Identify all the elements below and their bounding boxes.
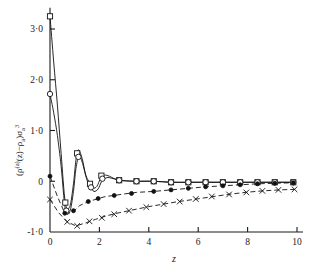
marker-circle (168, 180, 173, 185)
marker-dot (255, 182, 259, 186)
x-tick-layer: 0246810 (48, 227, 302, 247)
curve-series-cross (50, 189, 295, 226)
ylabel-arg: (z) (14, 151, 24, 161)
marker-circle (100, 176, 105, 181)
x-tick-label: 0 (48, 237, 53, 247)
marker-dot (238, 183, 242, 187)
marker-dot (112, 193, 116, 197)
x-tick-label: 2 (97, 237, 102, 247)
marker-circle (47, 91, 52, 96)
marker-dot (169, 188, 173, 192)
y-tick-label: 0 (38, 177, 43, 187)
marker-dot (86, 200, 90, 204)
curves-layer (50, 16, 295, 226)
y-tick-label: -1·0 (27, 227, 43, 237)
marker-cross (87, 219, 93, 225)
axes-layer (50, 8, 303, 232)
marker-cross (99, 215, 105, 221)
markers-layer (47, 14, 297, 229)
marker-dot (186, 186, 190, 190)
marker-dot (291, 181, 295, 185)
marker-circle (186, 180, 191, 185)
x-tick-label: 6 (196, 237, 201, 247)
marker-circle (134, 179, 139, 184)
marker-dot (63, 211, 67, 215)
marker-dot (152, 189, 156, 193)
marker-dot (130, 191, 134, 195)
marker-dot (273, 181, 277, 185)
figure-container: (ρ(a)(z)−ρa)σa3 z -1·001·02·03·0 0246810 (0, 0, 320, 274)
y-axis-label: (ρ(a)(z)−ρa)σa3 (13, 125, 26, 176)
marker-dot (204, 185, 208, 189)
x-tick-label: 4 (146, 237, 151, 247)
marker-circle (116, 178, 121, 183)
marker-dot (71, 209, 75, 213)
marker-cross (64, 219, 70, 225)
marker-dot (48, 174, 52, 178)
curve-series-circle (50, 94, 293, 214)
marker-circle (203, 180, 208, 185)
marker-circle (76, 154, 81, 159)
marker-dot (96, 197, 100, 201)
marker-circle (88, 185, 93, 190)
density-profile-chart: (ρ(a)(z)−ρa)σa3 z -1·001·02·03·0 0246810 (0, 0, 320, 274)
marker-square (47, 14, 52, 19)
ylabel-rho-superscript: (a) (13, 161, 21, 168)
marker-cross (74, 223, 80, 229)
x-tick-label: 8 (245, 237, 250, 247)
ylabel-sigma-superscript: 3 (13, 125, 20, 128)
y-tick-label: 1·0 (30, 126, 43, 136)
y-tick-label: 3·0 (30, 24, 43, 34)
svg-text:(ρ(a)(z)−ρa)σa3: (ρ(a)(z)−ρa)σa3 (13, 125, 26, 176)
y-tick-layer: -1·001·02·03·0 (27, 24, 55, 237)
ylabel-sigma-subscript: a (19, 128, 26, 131)
x-tick-label: 10 (292, 237, 302, 247)
marker-square (63, 200, 68, 205)
y-tick-label: 2·0 (30, 75, 43, 85)
marker-dot (221, 184, 225, 188)
marker-circle (151, 179, 156, 184)
x-axis-title: z (171, 253, 176, 264)
